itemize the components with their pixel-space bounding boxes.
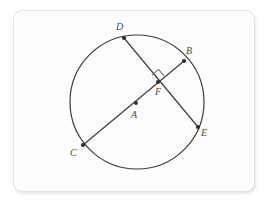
point-D-dot xyxy=(122,36,126,40)
circle-diagram xyxy=(0,0,273,207)
point-C-dot xyxy=(81,143,85,147)
diagram-page: D B F A E C xyxy=(0,0,273,207)
point-F-dot xyxy=(156,80,160,84)
point-label-b: B xyxy=(186,46,192,56)
point-label-f: F xyxy=(155,87,161,97)
point-label-a: A xyxy=(131,110,137,120)
point-B-dot xyxy=(182,59,186,63)
point-label-c: C xyxy=(70,148,77,158)
point-E-dot xyxy=(196,125,200,129)
point-A-dot xyxy=(134,101,138,105)
right-angle-marker-icon xyxy=(152,69,164,76)
point-label-d: D xyxy=(116,22,123,32)
segment-diameter-CB xyxy=(83,61,184,145)
point-label-e: E xyxy=(201,128,207,138)
